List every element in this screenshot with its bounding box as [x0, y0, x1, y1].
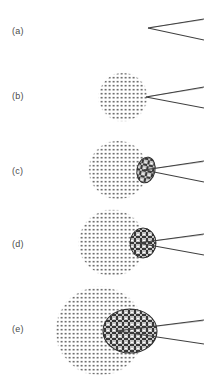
panel-d-hatch-inclusion — [130, 228, 156, 258]
figure-canvas — [0, 0, 204, 385]
panel-e-graphic — [55, 286, 204, 376]
panel-label-d: (d) — [12, 239, 24, 249]
panel-d-graphic — [78, 209, 204, 277]
panel-label-e: (e) — [12, 324, 24, 334]
panel-c-graphic — [88, 140, 204, 200]
panel-e-hatch-inclusion — [103, 309, 157, 353]
panel-label-c: (c) — [12, 166, 23, 176]
panel-a-rays — [148, 19, 204, 40]
panel-label-a: (a) — [12, 26, 24, 36]
panel-a-graphic — [148, 19, 204, 40]
figure-panel-sequence: (a) (b) (c) (d) (e) — [0, 0, 204, 385]
panel-b-graphic — [98, 72, 204, 122]
panel-b-rays — [146, 87, 204, 108]
panel-label-b: (b) — [12, 91, 24, 101]
